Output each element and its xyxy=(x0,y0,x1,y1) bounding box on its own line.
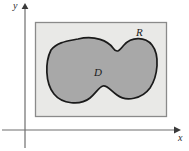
region-label-D: D xyxy=(94,67,102,78)
y-axis-arrow-icon xyxy=(22,3,29,9)
x-axis-label: x xyxy=(178,133,182,143)
y-axis-label: y xyxy=(13,1,17,11)
region-label-R: R xyxy=(136,27,143,38)
figure-container: y x R D xyxy=(0,0,189,151)
